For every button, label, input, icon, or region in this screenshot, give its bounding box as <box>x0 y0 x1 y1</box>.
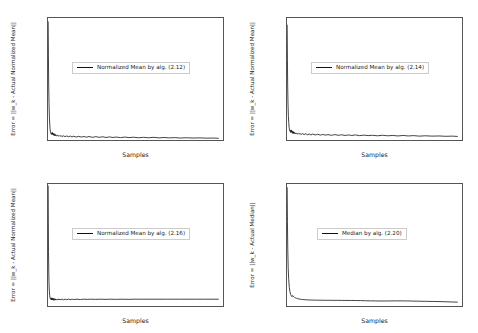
x-tick-label: 1000 <box>127 140 141 141</box>
x-tick-label: 0 <box>47 306 50 307</box>
x-tick-label: 0 <box>286 140 289 141</box>
x-tick-label: 1000 <box>127 306 141 307</box>
x-tick-label: 1250 <box>388 306 402 307</box>
x-tick-mark <box>134 140 135 141</box>
series-polyline <box>287 25 458 137</box>
x-tick-mark <box>351 306 352 307</box>
y-tick-label: 0.6 <box>286 35 287 41</box>
x-tick-label: 1250 <box>149 140 163 141</box>
data-line-bottom-left <box>48 184 223 306</box>
x-tick-label: 500 <box>325 306 336 307</box>
x-tick-label: 1500 <box>170 306 184 307</box>
series-polyline <box>48 22 219 139</box>
x-tick-mark <box>438 306 439 307</box>
x-tick-label: 750 <box>107 140 118 141</box>
y-tick-label: 0.8 <box>47 25 48 31</box>
x-tick-mark <box>91 140 92 141</box>
x-tick-label: 500 <box>86 306 97 307</box>
y-tick-label: 0.6 <box>47 221 48 227</box>
x-tick-label: 2000 <box>453 306 463 307</box>
x-tick-label: 1250 <box>388 140 402 141</box>
x-axis-label-bottom-right: Samples <box>286 318 463 324</box>
x-tick-mark <box>112 306 113 307</box>
x-tick-label: 250 <box>64 140 75 141</box>
x-tick-mark <box>199 306 200 307</box>
y-tick-label: 0.5 <box>286 52 287 58</box>
x-tick-label: 1000 <box>366 306 380 307</box>
panel-bottom-left: Error = ||w_k - Actual Normalized Mean||… <box>0 166 239 333</box>
x-tick-mark <box>287 140 288 141</box>
plot-area-top-left: Normalized Mean by alg. (2.12) 0.00.20.4… <box>47 17 224 141</box>
x-tick-mark <box>395 306 396 307</box>
y-tick-label: 2 <box>286 276 287 282</box>
y-axis-label-bottom-left: Error = ||w_k - Actual Normalized Mean|| <box>8 183 18 307</box>
x-tick-mark <box>48 140 49 141</box>
x-tick-mark <box>330 306 331 307</box>
y-tick-label: 0.3 <box>47 269 48 275</box>
x-tick-label: 750 <box>107 306 118 307</box>
x-tick-label: 2000 <box>214 140 224 141</box>
x-tick-label: 0 <box>286 306 289 307</box>
x-tick-label: 500 <box>325 140 336 141</box>
x-tick-mark <box>69 140 70 141</box>
x-tick-label: 0 <box>47 140 50 141</box>
x-tick-label: 1000 <box>366 140 380 141</box>
x-tick-mark <box>156 140 157 141</box>
x-tick-label: 1750 <box>192 140 206 141</box>
y-tick-label: 0.4 <box>47 82 48 88</box>
legend-label: Normalized Mean by alg. (2.14) <box>336 65 424 71</box>
y-tick-label: 0.7 <box>47 205 48 211</box>
x-tick-label: 1750 <box>431 140 445 141</box>
x-axis-label-bottom-left: Samples <box>47 318 224 324</box>
data-line-top-right <box>287 18 462 140</box>
y-tick-mark <box>286 140 287 141</box>
x-tick-label: 500 <box>86 140 97 141</box>
x-tick-label: 250 <box>64 306 75 307</box>
x-tick-mark <box>156 306 157 307</box>
x-tick-label: 1500 <box>409 306 423 307</box>
x-tick-mark <box>308 140 309 141</box>
x-tick-mark <box>112 140 113 141</box>
x-tick-label: 2000 <box>214 306 224 307</box>
y-tick-label: 0 <box>286 303 287 307</box>
x-tick-mark <box>220 306 221 307</box>
x-tick-label: 1750 <box>192 306 206 307</box>
x-tick-label: 250 <box>303 140 314 141</box>
legend-line-icon <box>77 67 93 68</box>
x-tick-mark <box>459 306 460 307</box>
legend-bottom-left: Normalized Mean by alg. (2.16) <box>72 228 190 240</box>
x-tick-label: 250 <box>303 306 314 307</box>
legend-label: Normalized Mean by alg. (2.16) <box>97 231 185 237</box>
x-tick-mark <box>134 306 135 307</box>
x-tick-mark <box>220 140 221 141</box>
y-tick-label: 0.3 <box>286 86 287 92</box>
y-tick-label: 0.2 <box>47 285 48 291</box>
x-axis-label-top-left: Samples <box>47 152 224 158</box>
figure-four-panel-error-plots: Error = ||w_k - Actual Normalized Mean||… <box>0 0 478 333</box>
x-tick-mark <box>351 140 352 141</box>
series-polyline <box>48 186 219 301</box>
plot-area-bottom-right: Median by alg. (2.20) 024680250500750100… <box>286 183 463 307</box>
x-tick-label: 1750 <box>431 306 445 307</box>
x-tick-label: 1250 <box>149 306 163 307</box>
legend-top-left: Normalized Mean by alg. (2.12) <box>72 62 190 74</box>
x-tick-label: 750 <box>346 140 357 141</box>
legend-line-icon <box>322 233 338 234</box>
legend-bottom-right: Median by alg. (2.20) <box>317 228 407 240</box>
x-tick-mark <box>373 306 374 307</box>
y-tick-label: 8 <box>286 198 287 204</box>
x-tick-mark <box>395 140 396 141</box>
data-line-bottom-right <box>287 184 462 306</box>
y-tick-label: 0.5 <box>47 237 48 243</box>
x-tick-mark <box>91 306 92 307</box>
x-tick-mark <box>330 140 331 141</box>
y-axis-label-bottom-right: Error = ||w_k - Actual Median|| <box>247 183 257 307</box>
y-tick-label: 6 <box>286 224 287 230</box>
x-tick-label: 1500 <box>409 140 423 141</box>
y-tick-label: 0.8 <box>47 188 48 194</box>
plot-area-top-right: Normalized Mean by alg. (2.14) 0.00.10.2… <box>286 17 463 141</box>
y-tick-label: 0.1 <box>286 120 287 126</box>
x-tick-mark <box>48 306 49 307</box>
x-tick-mark <box>438 140 439 141</box>
panel-top-right: Error = ||w_k - Actual Normalized Mean||… <box>239 0 478 166</box>
